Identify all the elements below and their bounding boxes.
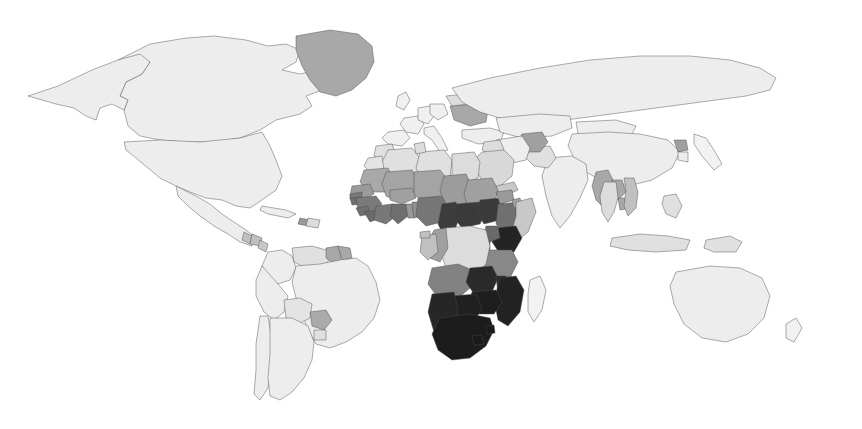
- country-region: South Korea: [678, 152, 688, 162]
- country-region: Tunisia: [414, 142, 426, 154]
- country-region: Lesotho: [472, 335, 484, 345]
- world-map-svg: CanadaUnited StatesAlaskaGreenlandMexico…: [0, 0, 862, 429]
- world-map-figure: CanadaUnited StatesAlaskaGreenlandMexico…: [0, 0, 862, 429]
- country-region: Equatorial Guinea: [420, 231, 430, 238]
- country-region: Eswatini: [486, 325, 495, 334]
- country-region: Dominican Republic: [306, 218, 320, 228]
- country-region: Uruguay: [314, 330, 326, 340]
